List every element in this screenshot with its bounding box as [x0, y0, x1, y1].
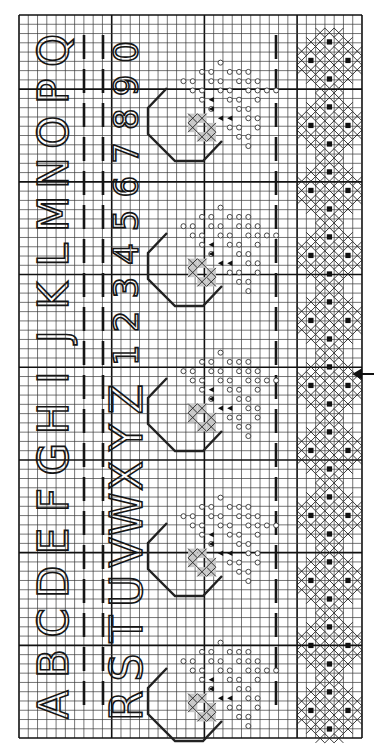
circle-stitch: [199, 97, 204, 102]
circle-stitch: [237, 677, 242, 682]
circle-stitch: [264, 523, 269, 528]
circle-stitch: [255, 233, 260, 238]
square-stitch: [327, 661, 332, 666]
circle-stitch: [255, 523, 260, 528]
circle-stitch: [255, 270, 260, 275]
circle-stitch: [227, 532, 232, 537]
diamond-motif: [297, 158, 362, 223]
circle-stitch: [246, 569, 251, 574]
triangle-stitch: [227, 406, 232, 411]
circle-stitch: [190, 224, 195, 229]
square-stitch: [327, 494, 332, 499]
triangle-stitch: [218, 551, 223, 556]
circle-stitch: [237, 387, 242, 392]
circle-stitch: [181, 659, 186, 664]
circle-stitch: [246, 523, 251, 528]
letter-glyph: Y: [101, 424, 152, 452]
circle-stitch: [218, 523, 223, 528]
letter-glyph: F: [29, 488, 78, 512]
circle-stitch: [237, 649, 242, 654]
square-stitch: [327, 429, 332, 434]
circle-stitch: [209, 79, 214, 84]
circle-stitch: [218, 60, 223, 65]
circle-stitch: [237, 251, 242, 256]
letter-glyph: K: [29, 281, 78, 310]
circle-stitch: [246, 396, 251, 401]
circle-stitch: [255, 677, 260, 682]
circle-stitch: [209, 659, 214, 664]
circle-stitch: [246, 359, 251, 364]
triangle-stitch: [209, 532, 214, 537]
square-stitch: [327, 141, 332, 146]
circle-stitch: [218, 668, 223, 673]
arrow-left-icon: [354, 370, 374, 378]
digit-glyph: 1: [106, 344, 146, 366]
cross-stitch-chart: ABCDEFGHIJKLMNOPQRSTUVWXYZ1234567890: [0, 0, 378, 752]
square-stitch: [308, 708, 313, 713]
circle-stitch: [255, 88, 260, 93]
digit-glyph: 6: [106, 176, 146, 198]
circle-stitch: [246, 724, 251, 729]
circle-stitch: [218, 224, 223, 229]
square-stitch: [345, 448, 350, 453]
circle-stitch: [209, 649, 214, 654]
circle-stitch: [237, 415, 242, 420]
circle-stitch: [190, 659, 195, 664]
circle-stitch: [246, 369, 251, 374]
circle-stitch: [199, 504, 204, 509]
square-stitch: [327, 624, 332, 629]
circle-stitch: [237, 659, 242, 664]
digit-glyph: 9: [106, 75, 146, 97]
circle-stitch: [274, 523, 279, 528]
square-stitch: [308, 188, 313, 193]
circle-stitch: [227, 523, 232, 528]
circle-stitch: [255, 387, 260, 392]
circle-stitch: [246, 714, 251, 719]
letter-glyph: J: [29, 330, 78, 345]
square-stitch: [345, 643, 350, 648]
circle-stitch: [218, 205, 223, 210]
circle-stitch: [246, 224, 251, 229]
circle-stitch: [237, 514, 242, 519]
circle-stitch: [227, 97, 232, 102]
square-stitch: [345, 578, 350, 583]
square-stitch: [308, 383, 313, 388]
triangle-stitch: [218, 116, 223, 121]
circle-stitch: [190, 523, 195, 528]
circle-stitch: [274, 88, 279, 93]
circle-stitch: [181, 224, 186, 229]
square-stitch: [327, 39, 332, 44]
circle-stitch: [199, 677, 204, 682]
digit-glyph: 4: [106, 243, 146, 265]
circle-stitch: [246, 279, 251, 284]
circle-stitch: [246, 134, 251, 139]
circle-stitch: [246, 233, 251, 238]
circle-stitch: [255, 551, 260, 556]
circle-stitch: [190, 369, 195, 374]
circle-stitch: [199, 233, 204, 238]
square-stitch: [327, 76, 332, 81]
letter-glyph: R: [101, 691, 152, 722]
circle-stitch: [199, 532, 204, 537]
letter-glyph: C: [29, 608, 78, 637]
circle-stitch: [190, 378, 195, 383]
circle-stitch: [237, 424, 242, 429]
circle-stitch: [190, 88, 195, 93]
circle-stitch: [227, 242, 232, 247]
letter-glyph: A: [29, 690, 78, 719]
circle-stitch: [255, 406, 260, 411]
digit-glyph: 5: [106, 210, 146, 232]
circle-stitch: [227, 270, 232, 275]
square-stitch: [327, 466, 332, 471]
circle-stitch: [255, 242, 260, 247]
circle-stitch: [255, 378, 260, 383]
square-stitch: [345, 383, 350, 388]
circle-stitch: [255, 415, 260, 420]
circle-stitch: [237, 369, 242, 374]
circle-stitch: [264, 88, 269, 93]
circle-stitch: [237, 79, 242, 84]
circle-stitch: [237, 396, 242, 401]
circle-stitch: [227, 705, 232, 710]
circle-stitch: [209, 504, 214, 509]
square-stitch: [308, 58, 313, 63]
